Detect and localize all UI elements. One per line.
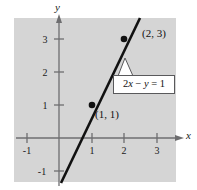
point-label-2-3: (2, 3): [142, 28, 166, 39]
x-axis-label: x: [186, 130, 191, 141]
y-tick-label-neg1: -1: [33, 167, 51, 177]
point-label-1-1: (1, 1): [95, 109, 119, 120]
equation-right-side: = 1: [149, 78, 165, 89]
y-axis: [56, 14, 62, 186]
x-tick-label-neg1: -1: [18, 146, 36, 156]
graph-figure: y x -1 1 2 3 3 2 1 -1 (1, 1) (2, 3) 2x −…: [0, 0, 197, 190]
x-axis: [16, 135, 184, 141]
y-tick-label-3: 3: [36, 35, 54, 45]
x-tick-label-1: 1: [83, 146, 101, 156]
y-tick-label-1: 1: [36, 101, 54, 111]
equation-callout-text: 2x − y = 1: [123, 79, 165, 90]
equation-callout-box: 2x − y = 1: [113, 75, 175, 94]
graph-canvas: [0, 0, 197, 190]
x-tick-label-2: 2: [115, 146, 133, 156]
point-2-3: [121, 36, 128, 43]
plotted-line: [61, 18, 140, 183]
y-tick-label-2: 2: [36, 68, 54, 78]
x-tick-label-3: 3: [148, 146, 166, 156]
y-axis-label: y: [55, 2, 60, 13]
equation-operator: −: [133, 78, 144, 89]
